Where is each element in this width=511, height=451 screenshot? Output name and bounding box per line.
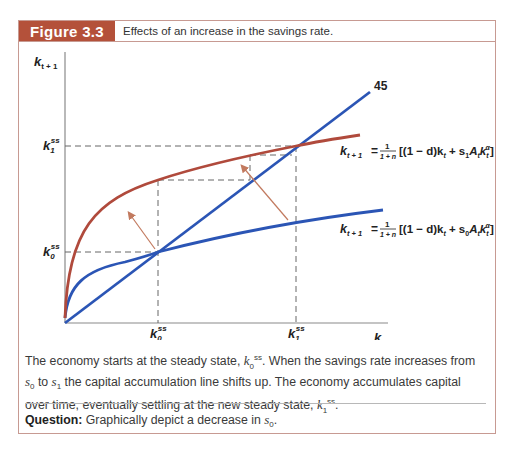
question-label: Question: bbox=[25, 413, 82, 427]
figure-body: The economy starts at the steady state, … bbox=[18, 20, 496, 434]
divider bbox=[25, 403, 486, 404]
figure-caption: The economy starts at the steady state, … bbox=[25, 350, 487, 418]
question: Question: Graphically depict a decrease … bbox=[25, 412, 277, 429]
